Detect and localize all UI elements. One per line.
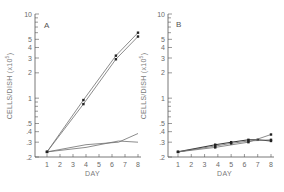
data-point	[270, 133, 272, 135]
y-tick-label: .5	[159, 120, 165, 127]
x-tick-label: 3	[71, 161, 75, 168]
x-tick-label: 8	[136, 161, 140, 168]
x-tick-label: 1	[176, 161, 180, 168]
x-tick-label: 7	[256, 161, 260, 168]
y-tick-label: 1	[28, 95, 32, 102]
data-point	[230, 142, 232, 144]
panel-a: 1054321.5.4.3.212345678DAYCELLS/DISH (x1…	[4, 11, 141, 178]
data-point	[115, 58, 117, 60]
y-tick-label: .2	[26, 154, 32, 161]
x-tick-label: 1	[45, 161, 49, 168]
y-tick-label: 2	[161, 69, 165, 76]
panel-label: A	[44, 21, 50, 30]
y-tick-label: 10	[24, 11, 32, 18]
data-point	[82, 103, 84, 105]
y-tick-label: 2	[28, 69, 32, 76]
x-tick-label: 5	[97, 161, 101, 168]
x-tick-label: 3	[203, 161, 207, 168]
y-tick-label: 1	[161, 95, 165, 102]
figure: 1054321.5.4.3.212345678DAYCELLS/DISH (x1…	[0, 0, 284, 192]
y-tick-label: .4	[26, 128, 32, 135]
y-tick-label: 5	[161, 36, 165, 43]
data-point	[137, 31, 139, 33]
y-tick-label: .3	[26, 139, 32, 146]
data-point	[82, 99, 84, 101]
y-tick-label: .4	[159, 128, 165, 135]
y-tick-label: 3	[28, 55, 32, 62]
data-point	[247, 140, 249, 142]
y-tick-label: .3	[159, 139, 165, 146]
x-axis-title: DAY	[85, 170, 100, 177]
y-tick-label: .2	[159, 154, 165, 161]
x-tick-label: 2	[189, 161, 193, 168]
x-tick-label: 6	[110, 161, 114, 168]
y-axis-title: CELLS/DISH (x105)	[138, 53, 148, 120]
y-tick-label: .5	[26, 120, 32, 127]
x-axis-title: DAY	[217, 170, 232, 177]
data-point	[214, 145, 216, 147]
data-point	[270, 139, 272, 141]
panel-label: B	[176, 20, 181, 29]
x-tick-label: 4	[216, 161, 220, 168]
x-tick-label: 6	[242, 161, 246, 168]
x-tick-label: 4	[84, 161, 88, 168]
start-point	[177, 151, 180, 154]
data-line-flat-2	[47, 141, 138, 152]
chart-canvas: 1054321.5.4.3.212345678DAYCELLS/DISH (x1…	[0, 0, 284, 192]
y-tick-label: 4	[28, 44, 32, 51]
data-point	[115, 54, 117, 56]
x-tick-label: 7	[123, 161, 127, 168]
x-tick-label: 8	[269, 161, 273, 168]
y-axis-title: CELLS/DISH (x105)	[4, 53, 14, 120]
x-tick-label: 2	[58, 161, 62, 168]
x-tick-label: 5	[229, 161, 233, 168]
y-tick-label: 4	[161, 44, 165, 51]
data-line-growing-2	[47, 37, 138, 152]
start-point	[46, 151, 49, 154]
data-point	[137, 35, 139, 37]
data-line-flat-1	[47, 134, 138, 152]
y-tick-label: 5	[28, 36, 32, 43]
y-tick-label: 3	[161, 55, 165, 62]
panel-b: 1054321.5.4.3.212345678DAYCELLS/DISH (x1…	[138, 11, 274, 178]
y-tick-label: 10	[157, 11, 165, 18]
